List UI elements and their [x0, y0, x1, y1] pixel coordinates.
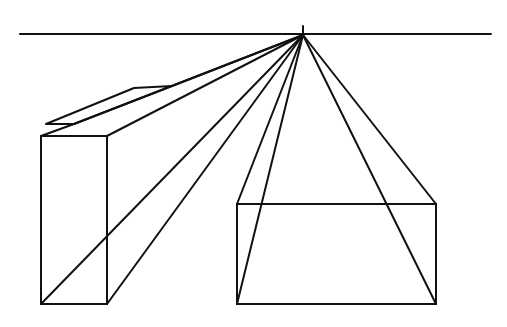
- right-box-bottom-right-receding: [303, 35, 436, 304]
- right-box-front-face: [237, 204, 436, 304]
- right-box-top-right-receding: [303, 35, 436, 204]
- right-box-bottom-left-receding: [237, 35, 303, 304]
- left-box-top-left-receding: [41, 124, 74, 136]
- left-box-diagonal: [41, 35, 303, 304]
- perspective-diagram: [0, 0, 507, 327]
- right-box-top-left-receding: [237, 35, 303, 204]
- left-box-bottom-right-receding: [107, 35, 303, 304]
- left-box-front-face: [41, 136, 107, 304]
- left-box-top-edge-to-vp: [74, 35, 303, 124]
- flat-plate: [46, 86, 172, 124]
- left-box-top-right-receding: [107, 35, 303, 136]
